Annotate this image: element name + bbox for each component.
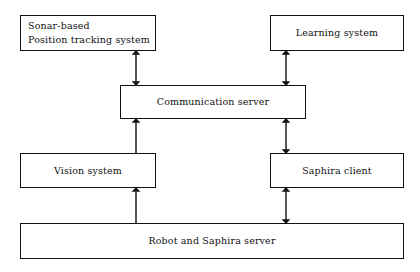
node-label-saphira-client: Saphira client [302, 164, 372, 178]
node-vision[interactable]: Vision system [20, 153, 156, 188]
diagram-canvas: Sonar-based Position tracking systemLear… [0, 0, 420, 272]
node-label-robot-server: Robot and Saphira server [148, 234, 275, 248]
node-label-comm-server: Communication server [157, 95, 270, 109]
arrow-connectors [136, 51, 286, 223]
node-sonar[interactable]: Sonar-based Position tracking system [20, 15, 156, 51]
node-comm-server[interactable]: Communication server [120, 85, 306, 119]
node-label-sonar: Sonar-based Position tracking system [28, 19, 150, 47]
node-label-vision: Vision system [54, 164, 122, 178]
node-label-learning: Learning system [296, 26, 378, 40]
node-learning[interactable]: Learning system [270, 15, 404, 51]
node-robot-server[interactable]: Robot and Saphira server [20, 223, 404, 259]
node-saphira-client[interactable]: Saphira client [270, 153, 404, 188]
